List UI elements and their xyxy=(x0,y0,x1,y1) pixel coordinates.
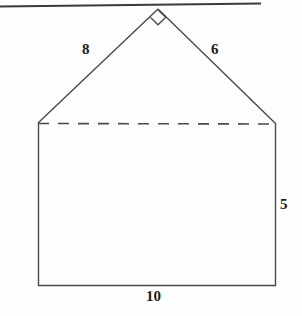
dimension-label-bottom-side: 10 xyxy=(146,289,161,304)
triangle-left-leg xyxy=(38,9,158,123)
top-reference-line xyxy=(0,4,261,7)
triangle-right-leg xyxy=(158,9,276,124)
dashed-base-segment xyxy=(38,124,276,125)
geometry-figure: 8 6 5 10 xyxy=(0,0,302,316)
dimension-label-right-side: 5 xyxy=(280,197,288,212)
dimension-label-right-leg: 6 xyxy=(211,42,219,57)
right-angle-marker-icon xyxy=(151,10,166,25)
dimension-label-left-leg: 8 xyxy=(82,42,90,57)
figure-canvas xyxy=(0,0,302,316)
